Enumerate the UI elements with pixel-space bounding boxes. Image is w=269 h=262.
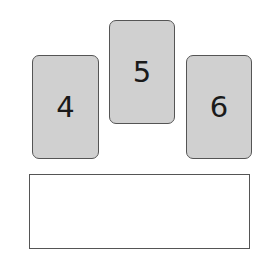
number-card-6: 6 [186, 55, 252, 159]
card-digit: 6 [210, 93, 228, 122]
answer-box[interactable] [29, 174, 250, 249]
number-card-4: 4 [32, 55, 99, 159]
number-card-5: 5 [109, 20, 175, 124]
card-digit: 5 [133, 58, 151, 87]
card-digit: 4 [56, 93, 74, 122]
